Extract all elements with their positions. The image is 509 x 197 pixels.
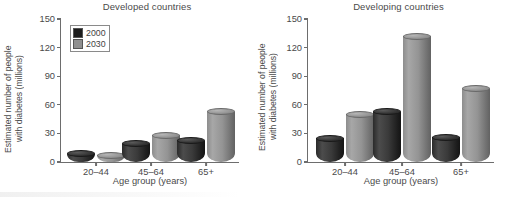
y-tick-30: 30 [45,128,61,138]
chart-title-developed: Developed countries [0,1,254,12]
bar-top-ellipse [346,111,374,118]
y-tick-label: 30 [292,128,302,138]
bar-top-ellipse [316,135,344,142]
y-tick-90: 90 [292,71,308,81]
bar-developing-2000-65-plus[interactable] [432,137,460,162]
x-tick-mark [150,162,151,166]
x-tick-mark [95,162,96,166]
chart-panel-developed: Developed countries Estimated number of … [0,0,254,197]
legend-swatch-icon-2030 [73,39,83,49]
legend-entry-2030: 2030 [73,38,106,49]
y-tick-30: 30 [292,128,308,138]
x-tick-45-64-developed: 45–64 [138,162,164,177]
legend-entry-2000: 2000 [73,27,106,38]
x-axis-label-developed: Age group (years) [61,176,239,186]
bar-top-ellipse [403,33,431,40]
bar-top-ellipse [373,108,401,115]
chart-title-developing: Developing countries [254,1,509,12]
y-tick-label: 90 [292,71,302,81]
y-axis-label-developing: Estimated number of people with diabetes… [257,24,279,170]
bar-developing-2000-45-64[interactable] [373,112,401,162]
bar-top-ellipse [152,132,180,139]
y-tick-150: 150 [286,14,308,24]
x-tick-mark [344,162,345,166]
y-tick-label: 0 [50,157,55,167]
bar-developing-2000-20-44[interactable] [316,138,344,162]
bar-body [346,114,374,162]
x-tick-45-64-developing: 45–64 [389,162,415,177]
bar-body [432,137,460,162]
legend-developed: 2000 2030 [70,25,110,52]
legend-label-2000: 2000 [86,28,106,38]
bar-body [403,36,431,162]
bar-developed-2000-65-plus[interactable] [177,141,205,162]
bar-developing-2030-65-plus[interactable] [462,89,490,162]
y-tick-label: 60 [292,100,302,110]
x-tick-65-plus-developed: 65+ [198,162,214,177]
x-tick-20-44-developing: 20–44 [332,162,358,177]
y-tick-0: 0 [297,157,308,167]
y-tick-120: 120 [39,43,61,53]
bar-developed-2030-20-44[interactable] [97,155,125,162]
x-tick-mark [205,162,206,166]
y-tick-label: 120 [286,43,302,53]
bar-body [177,141,205,162]
bar-body [152,135,180,162]
y-tick-label: 60 [45,100,55,110]
y-tick-label: 150 [286,14,302,24]
legend-swatch-icon-2000 [73,28,83,38]
bar-developing-2030-20-44[interactable] [346,114,374,162]
y-tick-120: 120 [286,43,308,53]
bar-body [316,138,344,162]
bar-top-ellipse [432,134,460,141]
plot-area-developing: 0 30 60 90 120 150 [307,19,494,163]
scan-artifact [0,192,240,197]
figure: Developed countries Estimated number of … [0,0,509,197]
y-tick-label: 150 [39,14,55,24]
y-tick-60: 60 [292,100,308,110]
bar-developed-2000-20-44[interactable] [67,154,95,162]
y-tick-label: 30 [45,128,55,138]
bar-group-container-developing [308,19,494,162]
x-tick-20-44-developed: 20–44 [83,162,109,177]
chart-panel-developing: Developing countries Estimated number of… [254,0,509,197]
bar-developed-2030-65-plus[interactable] [207,112,235,162]
y-tick-label: 0 [297,157,302,167]
y-tick-150: 150 [39,14,61,24]
legend-label-2030: 2030 [86,39,106,49]
bar-developed-2030-45-64[interactable] [152,135,180,162]
y-tick-90: 90 [45,71,61,81]
bar-developed-2000-45-64[interactable] [122,144,150,162]
y-axis-label-developed: Estimated number of people with diabetes… [3,28,25,170]
x-tick-mark [401,162,402,166]
x-axis-label-developing: Age group (years) [308,176,494,186]
bar-top-ellipse [207,108,235,115]
bar-body [207,112,235,162]
y-tick-label: 120 [39,43,55,53]
bar-body [373,112,401,162]
y-tick-label: 90 [45,71,55,81]
x-tick-mark [460,162,461,166]
bar-top-ellipse [97,152,125,159]
bar-developing-2030-45-64[interactable] [403,36,431,162]
y-tick-60: 60 [45,100,61,110]
x-tick-65-plus-developing: 65+ [453,162,469,177]
bar-body [462,89,490,162]
y-tick-0: 0 [50,157,61,167]
